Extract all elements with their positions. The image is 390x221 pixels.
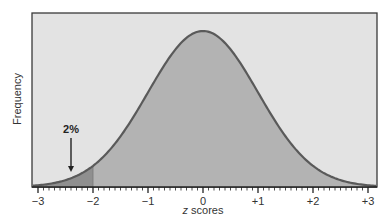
chart-svg: −3−2−10+1+2+3 2% z scores Frequency xyxy=(0,0,390,221)
y-axis-label: Frequency xyxy=(11,73,23,125)
x-tick-label: +1 xyxy=(252,195,265,207)
x-tick-label: −1 xyxy=(142,195,155,207)
x-tick-label: +2 xyxy=(307,195,320,207)
percent-label: 2% xyxy=(63,123,79,135)
x-tick-label: +3 xyxy=(362,195,375,207)
x-axis-label: z scores xyxy=(182,204,224,216)
x-tick-label: −3 xyxy=(32,195,45,207)
x-axis-ticks xyxy=(38,187,368,193)
normal-distribution-chart: −3−2−10+1+2+3 2% z scores Frequency xyxy=(0,0,390,221)
x-tick-label: −2 xyxy=(87,195,100,207)
